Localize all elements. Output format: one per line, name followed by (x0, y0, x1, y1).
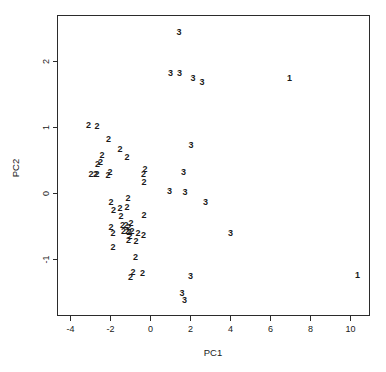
data-point-label: 3 (177, 27, 182, 37)
data-point-label: 2 (126, 235, 131, 245)
x-tick-label: 8 (308, 324, 313, 334)
data-point-label: 2 (133, 252, 138, 262)
data-point-label: 3 (199, 77, 204, 87)
data-point-label: 3 (191, 73, 196, 83)
data-point-label: 3 (181, 167, 186, 177)
data-point-label: 2 (141, 230, 146, 240)
x-tick-label: 4 (228, 324, 233, 334)
x-tick-label: 0 (148, 324, 153, 334)
data-point-label: 3 (203, 197, 208, 207)
y-axis-title: PC2 (10, 159, 21, 177)
x-tick-label: -4 (66, 324, 74, 334)
data-point-label: 2 (111, 228, 116, 238)
data-point-label: 2 (133, 236, 138, 246)
y-tick-label: 1 (41, 125, 51, 130)
data-point-label: 1 (287, 73, 292, 83)
scatter-plot-figure: -4-20246810 210-1 1122222222222222222222… (0, 0, 386, 372)
data-point-label: 2 (111, 205, 116, 215)
data-point-label: 2 (107, 167, 112, 177)
data-point-label: 2 (117, 144, 122, 154)
data-point-label: 3 (183, 187, 188, 197)
data-point-label: 3 (167, 186, 172, 196)
data-point-label: 2 (95, 121, 100, 131)
data-point-label: 2 (106, 134, 111, 144)
data-point-label: 2 (140, 268, 145, 278)
data-point-label: 2 (125, 202, 130, 212)
data-point-label: 3 (177, 68, 182, 78)
data-point-label: 3 (182, 295, 187, 305)
data-point-label: 2 (125, 152, 130, 162)
data-point-label: 2 (141, 177, 146, 187)
y-tick-label: -1 (41, 255, 51, 263)
plot-frame-box (58, 16, 370, 316)
data-point-label: 2 (95, 169, 100, 179)
x-tick-label: 6 (268, 324, 273, 334)
data-point-label: 2 (86, 120, 91, 130)
plot-canvas: -4-20246810 210-1 1122222222222222222222… (0, 0, 386, 372)
x-tick-label: 10 (345, 324, 355, 334)
data-point-label: 3 (168, 68, 173, 78)
data-point-label: 3 (228, 228, 233, 238)
data-point-label: 3 (189, 140, 194, 150)
data-point-label: 2 (141, 210, 146, 220)
data-point-label: 1 (355, 270, 360, 280)
data-point-label: 3 (188, 271, 193, 281)
data-point-label: 2 (111, 242, 116, 252)
x-tick-label: 2 (188, 324, 193, 334)
y-tick-label: 2 (41, 59, 51, 64)
data-point-label: 2 (95, 159, 100, 169)
x-axis-title: PC1 (204, 347, 222, 358)
y-tick-label: 0 (41, 191, 51, 196)
x-tick-label: -2 (106, 324, 114, 334)
data-point-label: 2 (128, 272, 133, 282)
